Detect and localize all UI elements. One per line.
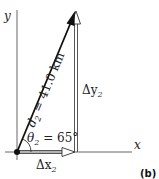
arrowhead-icon bbox=[62, 148, 75, 157]
origin-point bbox=[14, 149, 20, 155]
arrowhead-icon bbox=[67, 11, 76, 26]
x-axis-label: x bbox=[134, 138, 141, 152]
angle-label: θ2 = 65° bbox=[27, 131, 78, 147]
y-axis-label: y bbox=[3, 9, 11, 23]
vector-diagram: y x d2 = 41.0 km θ2 = 65° Δy2 Δx2 (b) bbox=[0, 0, 159, 179]
panel-label: (b) bbox=[140, 168, 156, 179]
y-component-label: Δy2 bbox=[82, 83, 103, 99]
x-component-label: Δx2 bbox=[36, 158, 57, 174]
